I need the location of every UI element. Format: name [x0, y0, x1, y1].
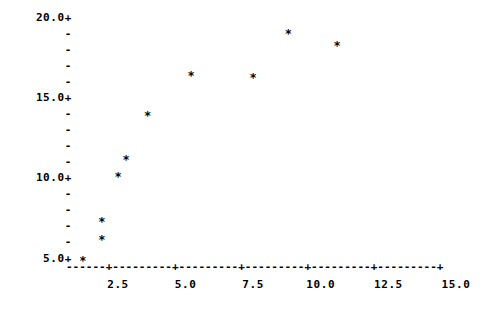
data-point-marker: *: [144, 110, 151, 122]
data-points-layer: **********: [0, 0, 482, 309]
data-point-marker: *: [285, 28, 292, 40]
data-point-marker: *: [98, 234, 105, 246]
data-point-marker: *: [122, 154, 129, 166]
data-point-marker: *: [79, 255, 86, 267]
data-point-marker: *: [333, 40, 340, 52]
data-point-marker: *: [114, 171, 121, 183]
data-point-marker: *: [187, 70, 194, 82]
data-point-marker: *: [98, 216, 105, 228]
ascii-scatter-plot: 20.0+----15.0+----10.0+----5.0+ ------+-…: [0, 0, 482, 309]
data-point-marker: *: [250, 72, 257, 84]
